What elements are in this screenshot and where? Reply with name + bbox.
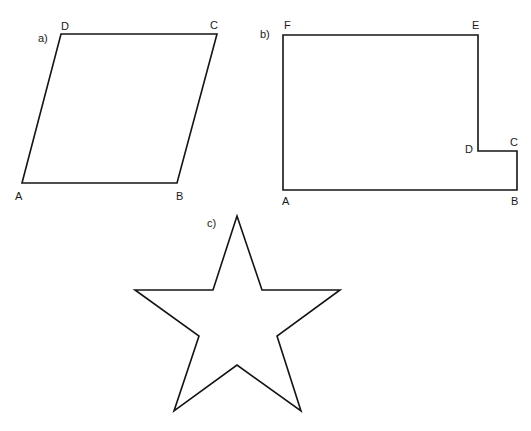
vertex-label-c: C — [510, 136, 518, 148]
figure-c-label: c) — [207, 217, 216, 229]
vertex-label-f: F — [284, 19, 291, 31]
vertex-label-b: B — [511, 195, 518, 207]
figure-b-polygon: b) F E D C A B — [260, 19, 518, 207]
parallelogram-abcd — [22, 34, 217, 183]
figure-a-parallelogram: a) D C A B — [15, 19, 218, 202]
polygon-abcdef — [283, 35, 517, 190]
vertex-label-e: E — [472, 19, 479, 31]
vertex-label-a: A — [15, 190, 23, 202]
geometry-figures: a) D C A B b) F E D C A B c) — [0, 0, 531, 431]
vertex-label-c: C — [210, 19, 218, 31]
figure-c-star: c) — [135, 216, 340, 411]
vertex-label-d: D — [465, 143, 473, 155]
figure-b-label: b) — [260, 28, 270, 40]
star-outline — [135, 216, 340, 411]
figure-a-label: a) — [38, 32, 48, 44]
vertex-label-a: A — [282, 195, 290, 207]
vertex-label-d: D — [61, 20, 69, 32]
vertex-label-b: B — [176, 190, 183, 202]
